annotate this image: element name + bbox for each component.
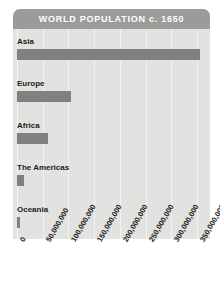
bar: [17, 175, 24, 186]
bar: [17, 133, 48, 144]
bar-category-label: Africa: [17, 121, 210, 131]
x-axis-tick-labels: 050,000,000100,000,000150,000,000200,000…: [13, 239, 210, 307]
bar-group: Africa: [17, 121, 210, 144]
chart-container: WORLD POPULATION c. 1650 AsiaEuropeAfric…: [0, 0, 220, 307]
bar-category-label: Europe: [17, 79, 210, 89]
bar-category-label: The Americas: [17, 163, 210, 173]
chart-title-banner: WORLD POPULATION c. 1650: [13, 9, 210, 29]
bar-category-label: Asia: [17, 37, 210, 47]
bar: [17, 91, 71, 102]
bar-group: Europe: [17, 79, 210, 102]
bars-layer: AsiaEuropeAfricaThe AmericasOceania: [13, 29, 210, 239]
bar: [17, 49, 200, 60]
chart-title: WORLD POPULATION c. 1650: [39, 14, 184, 24]
plot-area: AsiaEuropeAfricaThe AmericasOceania: [13, 29, 210, 239]
bar-group: Asia: [17, 37, 210, 60]
bar-group: The Americas: [17, 163, 210, 186]
bar: [17, 217, 20, 228]
